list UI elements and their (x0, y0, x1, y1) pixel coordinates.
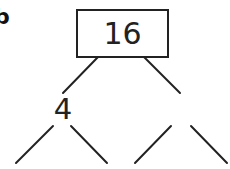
branch-right-right (191, 126, 227, 163)
branch-left-right (71, 126, 107, 163)
tree-branches (0, 0, 230, 169)
branch-root-left (63, 57, 98, 93)
branch-left-left (16, 126, 53, 163)
branch-right-left (135, 126, 171, 163)
branch-root-right (144, 57, 180, 93)
